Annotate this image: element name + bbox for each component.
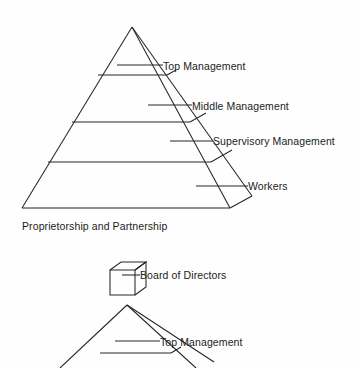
- label-board-of-directors: Board of Directors: [140, 269, 226, 281]
- label-workers: Workers: [248, 180, 288, 192]
- figure-canvas: Top Management Middle Management Supervi…: [0, 0, 357, 368]
- caption-proprietorship-and-partnership: Proprietorship and Partnership: [22, 220, 167, 232]
- top-pyramid-side-tier-dividers: [167, 70, 232, 162]
- top-pyramid-right-face: [132, 27, 252, 208]
- top-pyramid-tier-dividers: [48, 75, 211, 162]
- diagram-linework: [0, 0, 357, 368]
- label-top-management-secondary: Top Management: [160, 336, 243, 348]
- label-middle-management: Middle Management: [192, 100, 289, 112]
- label-supervisory-management: Supervisory Management: [213, 135, 335, 147]
- top-pyramid-leader-lines: [117, 65, 248, 186]
- label-top-management: Top Management: [163, 60, 246, 72]
